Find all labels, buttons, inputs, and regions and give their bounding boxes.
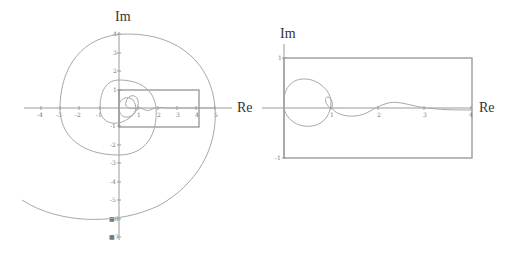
left-imag-axis-label: Im (115, 9, 131, 24)
left-y-tick-label: 2 (113, 67, 117, 74)
left-x-tick-label: 1 (137, 111, 141, 118)
left-x-tick-label: -4 (37, 111, 43, 118)
left-y-tick-label: 4 (113, 30, 117, 37)
right-curve-tail (326, 97, 472, 116)
left-y-tick-label: 3 (113, 49, 117, 56)
right-x-tick-label: 3 (423, 111, 427, 118)
left-y-tick-label: ■7 (109, 233, 119, 240)
left-real-axis-label: Re (237, 100, 253, 115)
diagram-canvas: -4 -3 -2 -1 1 2 3 4 5 4 3 2 1 (0, 0, 514, 254)
right-curve (284, 79, 331, 126)
right-real-axis-label: Re (479, 100, 495, 115)
left-y-tick-label: 1 (113, 86, 117, 93)
left-y-tick-label: -4 (110, 178, 116, 185)
right-y-tick-label: -1 (275, 154, 281, 161)
left-x-tick-label: 5 (214, 111, 218, 118)
left-x-tick-label: 3 (176, 111, 180, 118)
right-x-tick-label: 4 (469, 111, 473, 118)
left-x-tick-label: 4 (195, 111, 199, 118)
left-y-tick-label: -5 (110, 196, 116, 203)
right-y-tick-label: 1 (278, 54, 282, 61)
left-y-tick-label: -2 (110, 141, 116, 148)
right-x-tick-label: 2 (377, 111, 381, 118)
left-x-tick-label: -2 (75, 111, 81, 118)
left-y-tick-label: -3 (110, 159, 116, 166)
right-imag-axis-label: Im (280, 26, 296, 41)
left-panel: -4 -3 -2 -1 1 2 3 4 5 4 3 2 1 (22, 9, 253, 240)
right-x-tick-label: 1 (330, 111, 334, 118)
right-panel: 1 2 3 4 1 -1 Im Re (262, 26, 495, 161)
left-x-tick-label: 2 (157, 111, 161, 118)
